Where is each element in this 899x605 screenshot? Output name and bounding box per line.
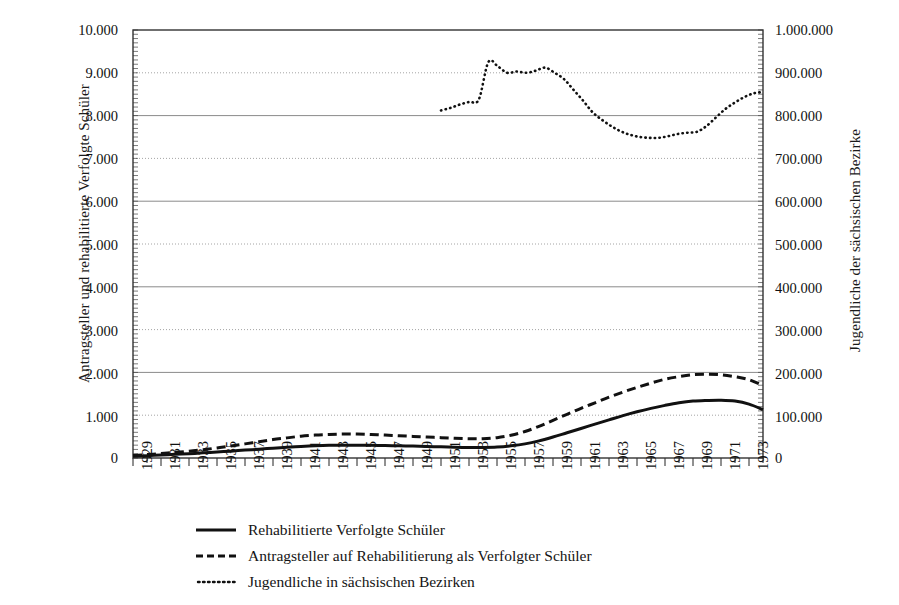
legend-label-antragsteller: Antragsteller auf Rehabilitierung als Ve… xyxy=(248,547,592,565)
x-tick-1957: 1957 xyxy=(531,441,548,470)
dashed-line-icon xyxy=(196,550,242,562)
x-tick-1967: 1967 xyxy=(671,441,688,470)
right-tick-200000: 200.000 xyxy=(775,366,885,383)
x-tick-1941: 1941 xyxy=(307,441,324,470)
x-tick-1953: 1953 xyxy=(475,441,492,470)
x-tick-1971: 1971 xyxy=(727,441,744,470)
right-tick-100000: 100.000 xyxy=(775,409,885,426)
x-tick-1943: 1943 xyxy=(335,441,352,470)
left-tick-6000: 6.000 xyxy=(32,194,118,211)
left-tick-4000: 4.000 xyxy=(32,280,118,297)
x-tick-1961: 1961 xyxy=(587,441,604,470)
plot-area xyxy=(0,0,899,605)
right-tick-300000: 300.000 xyxy=(775,323,885,340)
gridlines xyxy=(133,73,763,415)
legend-item-jugendliche: Jugendliche in sächsischen Bezirken xyxy=(196,569,756,595)
left-tick-10000: 10.000 xyxy=(32,22,118,39)
solid-line-icon xyxy=(196,524,242,536)
data-series-layer xyxy=(133,60,763,456)
left-tick-0: 0 xyxy=(32,450,118,467)
legend-label-jugendliche: Jugendliche in sächsischen Bezirken xyxy=(248,573,475,591)
x-tick-1963: 1963 xyxy=(615,441,632,470)
x-tick-1929: 1929 xyxy=(139,441,156,470)
right-axis-tick-labels: 1.000.000 900.000 800.000 700.000 600.00… xyxy=(775,0,885,605)
left-tick-1000: 1.000 xyxy=(32,409,118,426)
legend-item-antragsteller: Antragsteller auf Rehabilitierung als Ve… xyxy=(196,543,756,569)
left-tick-5000: 5.000 xyxy=(32,237,118,254)
legend-item-rehabilitierte: Rehabilitierte Verfolgte Schüler xyxy=(196,517,756,543)
left-tick-8000: 8.000 xyxy=(32,108,118,125)
x-tick-1937: 1937 xyxy=(251,441,268,470)
x-tick-1969: 1969 xyxy=(699,441,716,470)
chart-legend: Rehabilitierte Verfolgte Schüler Antrags… xyxy=(196,517,756,595)
dotted-line-icon xyxy=(196,576,242,588)
x-tick-1965: 1965 xyxy=(643,441,660,470)
left-tick-7000: 7.000 xyxy=(32,151,118,168)
right-tick-1000000: 1.000.000 xyxy=(775,22,885,39)
x-tick-1939: 1939 xyxy=(279,441,296,470)
x-tick-1945: 1945 xyxy=(363,441,380,470)
x-tick-1947: 1947 xyxy=(391,441,408,470)
right-tick-900000: 900.000 xyxy=(775,65,885,82)
x-tick-1959: 1959 xyxy=(559,441,576,470)
right-tick-0: 0 xyxy=(775,450,885,467)
left-axis-tick-labels: 10.000 9.000 8.000 7.000 6.000 5.000 4.0… xyxy=(32,0,118,605)
left-tick-2000: 2.000 xyxy=(32,366,118,383)
series-line-dotted xyxy=(441,60,763,138)
x-tick-1935: 1935 xyxy=(223,441,240,470)
left-tick-3000: 3.000 xyxy=(32,323,118,340)
x-tick-1955: 1955 xyxy=(503,441,520,470)
right-tick-700000: 700.000 xyxy=(775,151,885,168)
x-tick-1973: 1973 xyxy=(755,441,772,470)
legend-label-rehabilitierte: Rehabilitierte Verfolgte Schüler xyxy=(248,521,445,539)
right-tick-600000: 600.000 xyxy=(775,194,885,211)
right-tick-800000: 800.000 xyxy=(775,108,885,125)
right-tick-400000: 400.000 xyxy=(775,280,885,297)
x-tick-1933: 1933 xyxy=(195,441,212,470)
x-tick-1931: 1931 xyxy=(167,441,184,470)
x-tick-1949: 1949 xyxy=(419,441,436,470)
right-tick-500000: 500.000 xyxy=(775,237,885,254)
left-tick-9000: 9.000 xyxy=(32,65,118,82)
x-tick-1951: 1951 xyxy=(447,441,464,470)
chart-figure: Antragsteller und rehabilitierte Verfolg… xyxy=(0,0,899,605)
